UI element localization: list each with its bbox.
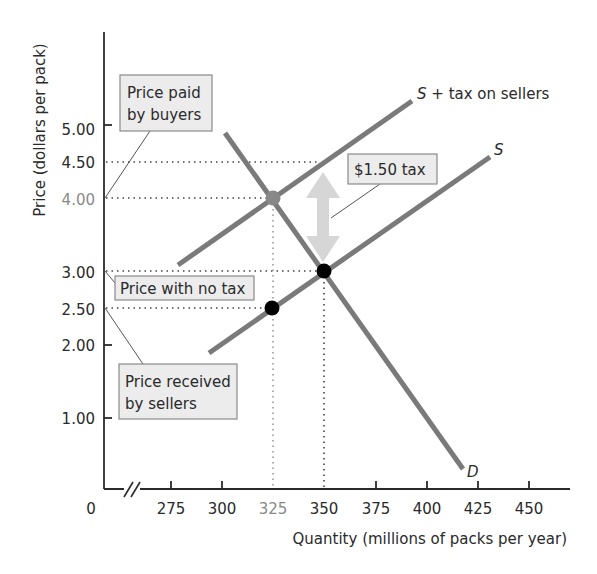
box-text: Price received [125,373,231,391]
x-tick-label: 400 [413,500,442,518]
reference-lines [106,162,324,489]
x-origin-label: 0 [86,500,96,518]
annotation-price-paid-by-buyers: Price paid by buyers [120,75,212,131]
tax-double-arrow [306,172,340,262]
point-price-buyers [266,191,281,206]
y-axis-title: Price (dollars per pack) [31,43,49,216]
point-no-tax-equilibrium [317,264,332,279]
annotation-price-with-no-tax: Price with no tax [115,276,254,300]
y-tick-label: 1.00 [62,410,95,428]
y-tick-label: 3.00 [62,264,95,282]
tax-incidence-chart: 5.00 4.50 4.00 3.00 2.50 2.00 1.00 0 275… [0,0,597,574]
annotation-price-received-by-sellers: Price received by sellers [119,364,237,419]
y-tick-labels: 5.00 4.50 4.00 3.00 2.50 2.00 1.00 [62,121,95,428]
x-tick-labels: 0 275 300 325 350 375 400 425 450 [86,500,543,518]
curve-label-s-plus-tax: S + tax on sellers [417,85,550,103]
curve-label-d: D [467,463,479,481]
x-tick-label: 375 [362,500,391,518]
box-text: $1.50 tax [354,161,426,179]
x-axis-title: Quantity (millions of packs per year) [293,530,567,548]
point-price-sellers [265,301,280,316]
axis-break-icon [124,482,140,497]
x-tick-label: 350 [310,500,339,518]
y-tick-label: 5.00 [62,121,95,139]
x-tick-label: 450 [515,500,544,518]
x-tick-label: 300 [208,500,237,518]
box-text: by sellers [125,395,197,413]
curve-label-s: S [494,141,504,159]
y-tick-label: 4.00 [62,191,95,209]
box-text: Price paid [127,84,201,102]
y-tick-label: 2.50 [62,301,95,319]
y-tick-label: 2.00 [62,337,95,355]
x-tick-label: 425 [464,500,493,518]
box-text: Price with no tax [120,280,245,298]
x-tick-label: 325 [259,500,288,518]
annotation-tax-amount: $1.50 tax [348,154,437,184]
curve-s [209,157,490,353]
x-tick-label: 275 [157,500,186,518]
box-text: by buyers [127,106,201,124]
y-tick-label: 4.50 [62,154,95,172]
